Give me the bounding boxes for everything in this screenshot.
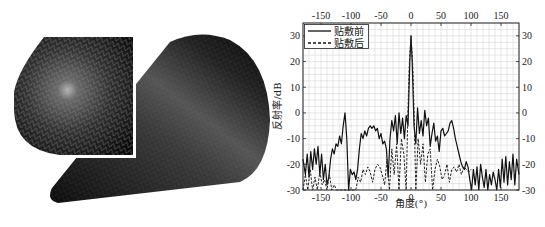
x-tick-label-top: -50 xyxy=(374,10,387,21)
x-tick-label: -100 xyxy=(342,192,360,203)
y-tick-label-right: 10 xyxy=(522,82,532,93)
y-tick-label: -10 xyxy=(287,133,300,144)
inset-tip-closeup xyxy=(14,37,136,158)
y-axis-label: 反射率/dB xyxy=(271,82,283,129)
y-tick-label-right: 30 xyxy=(522,30,532,41)
reflectivity-chart: -150-150-100-100-50-50005050100100150150… xyxy=(270,0,545,227)
y-tick-label-right: -20 xyxy=(522,159,535,170)
legend-label-before: 贴敷前 xyxy=(334,25,364,37)
x-tick-label-top: 100 xyxy=(464,10,479,21)
y-tick-label-right: 20 xyxy=(522,56,532,67)
legend: 贴敷前 贴敷后 xyxy=(305,25,369,50)
x-tick-label-top: -150 xyxy=(312,10,330,21)
y-tick-label: 30 xyxy=(290,30,300,41)
legend-label-after: 贴敷后 xyxy=(334,37,364,49)
cone-target-image xyxy=(0,0,285,227)
y-tick-label-right: -10 xyxy=(522,133,535,144)
y-tick-label: -30 xyxy=(287,185,300,196)
x-axis-label: 角度(°) xyxy=(395,197,428,209)
y-tick-label: 20 xyxy=(290,56,300,67)
x-tick-label-top: 150 xyxy=(494,10,509,21)
y-tick-label: 0 xyxy=(295,107,300,118)
y-tick-label-right: 0 xyxy=(522,107,527,118)
y-tick-label: -20 xyxy=(287,159,300,170)
x-tick-label-top: 50 xyxy=(436,10,446,21)
x-tick-label: 100 xyxy=(464,192,479,203)
x-tick-label-top: -100 xyxy=(342,10,360,21)
x-tick-label-top: 0 xyxy=(409,10,414,21)
x-tick-label: -150 xyxy=(312,192,330,203)
x-tick-label: 50 xyxy=(436,192,446,203)
y-tick-label: 10 xyxy=(290,82,300,93)
y-tick-label-right: -30 xyxy=(522,185,535,196)
x-tick-label: 150 xyxy=(494,192,509,203)
x-tick-label: -50 xyxy=(374,192,387,203)
